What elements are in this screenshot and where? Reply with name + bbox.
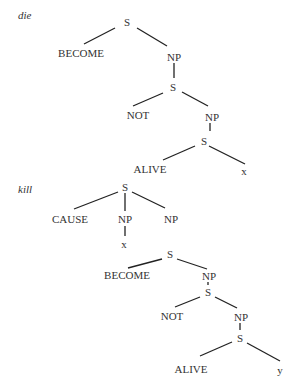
tree-node-s: S [122,182,128,193]
tree-node-np: NP [202,271,216,282]
tree-node-np: NP [164,214,178,225]
tree-node-np: NP [118,214,132,225]
tree-edge [177,259,207,269]
tree-edge [175,297,200,307]
tree-edge [163,146,195,160]
tree-node-s: S [124,17,130,28]
tree-node-become: BECOME [104,270,150,281]
tree-edge [247,343,280,361]
tree-edge [209,146,245,164]
tree-edge [200,342,232,356]
tree-node-s: S [201,136,207,147]
tree-edge [74,192,118,209]
tree-edge [128,259,162,268]
die-title: die [18,10,31,21]
tree-node-np: NP [234,312,248,323]
tree-node-not: NOT [161,311,184,322]
tree-edge [137,28,167,46]
tree-node-s: S [170,82,176,93]
tree-edge [84,28,115,44]
tree-node-cause: CAUSE [52,214,88,225]
tree-node-np: NP [167,52,181,63]
tree-edge [132,192,165,208]
tree-node-s: S [167,249,173,260]
tree-node-alive: ALIVE [134,164,167,175]
tree-node-s: S [205,287,211,298]
tree-node-y: y [277,365,283,376]
tree-node-x: x [121,239,127,250]
tree-node-x: x [241,166,247,177]
tree-node-become: BECOME [58,48,104,59]
tree-edge [182,92,208,106]
kill-title: kill [18,184,32,195]
tree-edge [215,297,237,308]
tree-node-not: NOT [127,110,150,121]
syntax-tree-diagram: die kill SBECOMENPSNOTNPSALIVExSCAUSENPN… [0,0,299,392]
tree-node-np: NP [205,112,219,123]
tree-node-s: S [237,333,243,344]
tree-edge [133,93,163,106]
tree-node-alive: ALIVE [175,364,208,375]
tree-edges [0,0,299,392]
